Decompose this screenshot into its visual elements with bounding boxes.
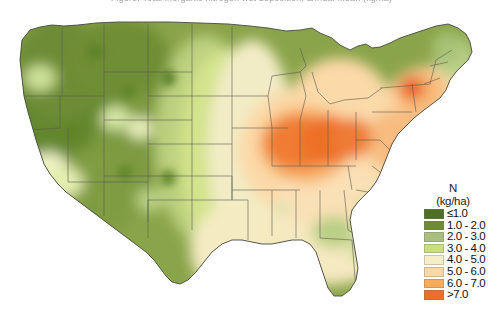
pocket-olympic — [24, 65, 56, 91]
map-legend: N (kg/ha) ≤1.0 1.0 - 2.0 2.0 - 3.0 3.0 -… — [424, 182, 498, 301]
legend-label: ≤1.0 — [447, 208, 468, 220]
legend-title: N — [424, 182, 482, 195]
band-1-2-north — [70, 18, 170, 102]
legend-row[interactable]: 5.0 - 6.0 — [424, 266, 498, 278]
detail-cascades — [86, 44, 104, 60]
legend-swatch — [424, 267, 444, 277]
legend-swatch — [424, 221, 444, 231]
detail-idaho — [121, 85, 135, 99]
detail-co-plateau — [160, 170, 176, 186]
detail-ark-la-tex — [273, 200, 291, 216]
pocket-wind-river — [101, 106, 129, 130]
pocket-sc — [400, 186, 424, 206]
legend-label: 2.0 - 3.0 — [447, 231, 485, 243]
detail-nevada — [65, 123, 79, 137]
legend-swatch — [424, 290, 444, 300]
legend-units: (kg/ha) — [424, 195, 482, 208]
pocket-florida — [380, 248, 410, 296]
band-gt7-western-new-york — [399, 77, 425, 99]
legend-label: >7.0 — [447, 289, 468, 301]
pocket-georgia — [358, 196, 386, 220]
legend-swatch — [424, 209, 444, 219]
nitrogen-deposition-figure: Figure. Total inorganic nitrogen wet dep… — [0, 0, 503, 322]
legend-row[interactable]: ≤1.0 — [424, 208, 498, 220]
legend-swatch — [424, 279, 444, 289]
legend-swatch — [424, 232, 444, 242]
band-gt7-ohio — [332, 118, 372, 158]
legend-swatch — [424, 244, 444, 254]
pocket-alabama — [312, 216, 356, 248]
pocket-front-range — [127, 117, 153, 139]
legend-label: 5.0 - 6.0 — [447, 266, 485, 278]
legend-row[interactable]: >7.0 — [424, 289, 498, 301]
legend-swatch — [424, 255, 444, 265]
detail-utah — [117, 165, 133, 179]
legend-class-list: ≤1.0 1.0 - 2.0 2.0 - 3.0 3.0 - 4.0 4.0 -… — [424, 208, 498, 301]
